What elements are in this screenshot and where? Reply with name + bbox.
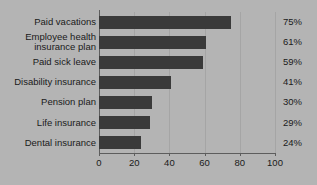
bar-row bbox=[99, 72, 275, 92]
category-label: Employee health insurance plan bbox=[4, 32, 96, 53]
value-label: 75% bbox=[283, 17, 313, 28]
category-label: Dental insurance bbox=[4, 138, 96, 149]
x-tick-label: 80 bbox=[225, 157, 255, 168]
x-tick-label: 40 bbox=[154, 157, 184, 168]
bar-row bbox=[99, 133, 275, 153]
bar bbox=[99, 56, 203, 69]
x-tick-label: 60 bbox=[190, 157, 220, 168]
category-label: Disability insurance bbox=[4, 77, 96, 88]
bar bbox=[99, 36, 206, 49]
category-label: Pension plan bbox=[4, 97, 96, 108]
value-label: 24% bbox=[283, 138, 313, 149]
x-tick-mark bbox=[169, 153, 170, 156]
bar bbox=[99, 116, 150, 129]
bar-row bbox=[99, 93, 275, 113]
plot-area bbox=[99, 12, 275, 153]
value-label: 59% bbox=[283, 57, 313, 68]
x-tick-mark bbox=[205, 153, 206, 156]
x-tick-mark bbox=[240, 153, 241, 156]
bar-row bbox=[99, 52, 275, 72]
gridline bbox=[275, 12, 276, 153]
value-label: 29% bbox=[283, 118, 313, 129]
bar-chart: Paid vacations75%Employee health insuran… bbox=[0, 0, 317, 185]
x-tick-label: 0 bbox=[84, 157, 114, 168]
bar bbox=[99, 96, 152, 109]
category-label: Life insurance bbox=[4, 118, 96, 129]
bar bbox=[99, 136, 141, 149]
category-label: Paid sick leave bbox=[4, 57, 96, 68]
x-tick-mark bbox=[275, 153, 276, 156]
x-tick-label: 100 bbox=[260, 157, 290, 168]
bar-row bbox=[99, 32, 275, 52]
x-axis-line bbox=[99, 153, 276, 154]
x-tick-label: 20 bbox=[119, 157, 149, 168]
bar-row bbox=[99, 113, 275, 133]
x-tick-mark bbox=[134, 153, 135, 156]
x-tick-mark bbox=[99, 153, 100, 156]
value-label: 30% bbox=[283, 97, 313, 108]
value-label: 41% bbox=[283, 77, 313, 88]
bar bbox=[99, 76, 171, 89]
bar-row bbox=[99, 12, 275, 32]
category-label: Paid vacations bbox=[4, 17, 96, 28]
value-label: 61% bbox=[283, 37, 313, 48]
bar bbox=[99, 16, 231, 29]
